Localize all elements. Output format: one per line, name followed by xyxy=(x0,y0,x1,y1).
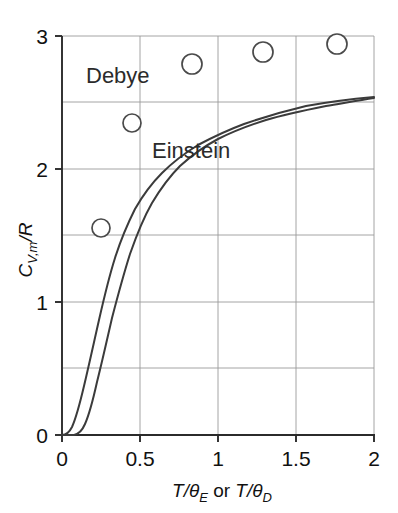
chart-figure: 3 2 1 0 0 0.5 1 1.5 2 CV,m/R T/θE or T/θ… xyxy=(0,0,398,513)
x-axis-title-sub1: E xyxy=(199,490,208,505)
y-axis-title-main: C xyxy=(15,263,36,277)
data-point-marker xyxy=(123,114,141,132)
xtick-label-2: 2 xyxy=(368,447,380,470)
x-axis-title-main1: T/θ xyxy=(172,480,200,501)
data-point-marker xyxy=(327,34,347,54)
chart-background xyxy=(0,0,398,513)
data-point-marker xyxy=(253,42,273,62)
xtick-label-0: 0 xyxy=(56,447,68,470)
debye-label: Debye xyxy=(86,63,150,88)
xtick-label-1: 1 xyxy=(212,447,224,470)
xtick-label-0.5: 0.5 xyxy=(125,447,154,470)
x-axis-title-conj: or xyxy=(208,480,231,501)
y-axis-title-sub: V,m xyxy=(25,241,40,263)
debye-einstein-heat-capacity-plot: 3 2 1 0 0 0.5 1 1.5 2 CV,m/R T/θE or T/θ… xyxy=(0,0,398,513)
ytick-label-2: 2 xyxy=(36,158,48,181)
ytick-label-3: 3 xyxy=(36,25,48,48)
xtick-label-1.5: 1.5 xyxy=(281,447,310,470)
ytick-label-1: 1 xyxy=(36,291,48,314)
data-point-marker xyxy=(182,54,202,74)
ytick-label-0: 0 xyxy=(36,424,48,447)
x-axis-title-sub2: D xyxy=(263,490,272,505)
einstein-label: Einstein xyxy=(152,138,230,163)
data-point-marker xyxy=(92,219,110,237)
y-axis-title-tail: /R xyxy=(15,222,36,243)
x-axis-title-main2: T/θ xyxy=(230,480,263,501)
